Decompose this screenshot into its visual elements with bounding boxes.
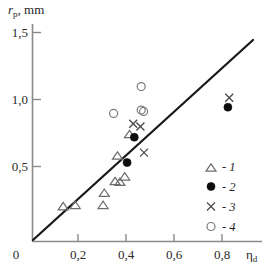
legend-item-4: -4 <box>207 220 235 234</box>
data-point-cross <box>225 94 233 102</box>
x-tick-label: 0,6 <box>166 247 183 262</box>
y-axis-title: rp, mm <box>8 2 44 19</box>
legend-label: -3 <box>222 200 235 214</box>
x-tick-label: 0,2 <box>70 247 86 262</box>
legend-label: -2 <box>222 180 235 194</box>
data-point-cross <box>140 149 148 157</box>
legend-marker-open-circle <box>207 223 215 231</box>
x-tick-label: 0,4 <box>118 247 135 262</box>
legend-marker-filled-circle <box>207 183 215 191</box>
data-point-cross <box>136 123 144 131</box>
series-3-crosses <box>129 94 233 157</box>
legend-item-3: -3 <box>207 200 235 214</box>
legend-marker-open-triangle <box>206 164 216 171</box>
data-point-filled-circle <box>130 133 138 141</box>
data-point-filled-circle <box>123 159 131 167</box>
data-point-triangle <box>98 201 108 208</box>
legend-label: -1 <box>222 160 235 174</box>
data-point-triangle <box>120 173 130 180</box>
x-tick-label: 0 <box>13 247 20 262</box>
data-point-triangle <box>58 202 68 209</box>
y-tick-label: 0,5 <box>12 159 28 174</box>
legend-marker-cross <box>207 203 215 211</box>
scatter-chart-figure: 1,5 1,0 0,5 0 0,2 0,4 0,6 0,8 rp, mm ηd … <box>0 0 271 271</box>
data-point-triangle <box>99 189 109 196</box>
y-tick-label: 1,0 <box>12 92 28 107</box>
y-axis <box>33 24 42 241</box>
y-tick-label: 1,5 <box>12 25 28 40</box>
series-1-open-triangles <box>58 130 134 210</box>
series-4-open-circles <box>110 83 148 118</box>
data-point-cross <box>129 120 137 128</box>
x-tick-label: 0,8 <box>214 247 230 262</box>
legend-item-1: -1 <box>206 160 235 174</box>
data-point-open-circle <box>140 107 148 115</box>
legend-label: -4 <box>222 220 235 234</box>
data-point-filled-circle <box>224 103 232 111</box>
chart-legend: -1 -2 -3 -4 <box>206 160 235 234</box>
chart-canvas: 1,5 1,0 0,5 0 0,2 0,4 0,6 0,8 rp, mm ηd … <box>0 0 271 271</box>
x-axis <box>32 234 262 242</box>
data-point-open-circle <box>137 83 145 91</box>
x-axis-title: ηd <box>246 247 258 264</box>
legend-item-2: -2 <box>207 180 235 194</box>
data-point-open-circle <box>110 109 118 117</box>
data-point-triangle <box>113 152 123 159</box>
